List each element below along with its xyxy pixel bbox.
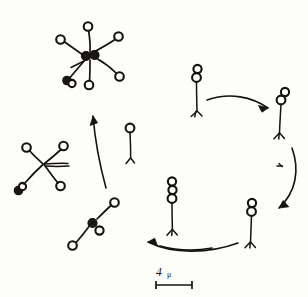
- arrow-to-rosette: [90, 116, 106, 188]
- threecell-cell-b: [168, 186, 176, 194]
- arrow-cycle-top: [207, 96, 268, 112]
- arrow-cycle-bottom: [148, 238, 238, 251]
- singlecell-body: [126, 124, 135, 133]
- stage-two-cell-top: [191, 65, 202, 117]
- twocellbr-cell-b: [247, 207, 256, 216]
- rosette-arm-6: [64, 42, 83, 56]
- smallcolony-arm-1: [97, 205, 112, 219]
- twocellright-flagellum: [280, 105, 282, 134]
- twocelltop-cell-b: [192, 73, 201, 82]
- twocellbr-flagellum: [251, 216, 252, 242]
- twocelltop-cell-a: [193, 65, 201, 73]
- singlecell-flagellum: [130, 133, 131, 159]
- stage-single-cell: [126, 124, 135, 164]
- twocelltop-foot-right: [197, 111, 202, 116]
- stage-two-cell-right: [274, 88, 289, 139]
- threecell-foot-right: [172, 230, 177, 235]
- twocellright-cell-b: [277, 96, 286, 105]
- scale-unit: μ: [167, 270, 171, 279]
- smallcolony-cell-3: [68, 241, 77, 250]
- threecell-cell-a: [168, 177, 176, 185]
- scale-bar-group: 4 μ: [156, 266, 192, 289]
- cross-arm-4: [45, 165, 59, 183]
- rosette-arm-4: [90, 60, 91, 81]
- rosette-arm-2: [94, 40, 115, 53]
- arrow-cycle-right: [277, 148, 296, 208]
- rosette-cell-3: [115, 72, 124, 81]
- stage-three-cell-bottom: [167, 177, 177, 235]
- twocellright-foot-right: [280, 133, 285, 138]
- rosette-arm-1: [89, 30, 91, 52]
- twocellbr-foot-right: [251, 242, 256, 247]
- cross-flagellum-1: [44, 163, 68, 164]
- rosette-cell-4: [85, 81, 94, 90]
- twocelltop-flagellum: [197, 82, 198, 111]
- stage-cross-colony: [14, 142, 69, 195]
- arrow-cycle-right-head: [279, 201, 289, 209]
- stage-small-colony: [68, 198, 119, 250]
- rosette-cell-5b: [68, 80, 75, 87]
- cross-arm-3: [24, 165, 43, 185]
- twocellbr-cell-a: [248, 199, 256, 207]
- singlecell-foot-left: [126, 158, 131, 164]
- life-cycle-diagram: Life cycle diagram of a flagellated colo…: [0, 0, 308, 297]
- figure-canvas: Life cycle diagram of a flagellated colo…: [0, 0, 308, 297]
- rosette-hub-cell-a: [82, 52, 91, 61]
- rosette-cell-6: [56, 35, 65, 44]
- twocellright-foot-mid: [279, 134, 280, 140]
- arrow-cycle-right-line: [279, 148, 296, 208]
- rosette-arm-5: [70, 60, 85, 78]
- singlecell-foot-right: [131, 158, 135, 163]
- cross-arm-1: [30, 151, 44, 165]
- arrow-to-rosette-line: [93, 116, 106, 188]
- stage-two-cell-bottom-right: [245, 199, 256, 248]
- cross-arm-2: [45, 150, 62, 164]
- smallcolony-arm-2: [77, 227, 90, 243]
- rosette-cell-1: [84, 22, 93, 31]
- smallcolony-cell-2: [95, 226, 103, 234]
- stage-rosette-colony: [56, 22, 124, 89]
- threecell-cell-c: [168, 194, 177, 203]
- scale-value: 4: [156, 266, 162, 278]
- rosette-cell-2: [114, 32, 123, 41]
- arrow-to-rosette-head: [90, 116, 97, 126]
- rosette-arm-3: [96, 58, 116, 73]
